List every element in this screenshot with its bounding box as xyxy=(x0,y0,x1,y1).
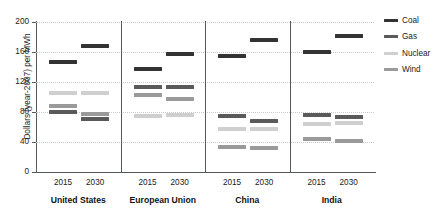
legend-swatch-icon xyxy=(384,19,398,22)
data-marker xyxy=(218,114,246,118)
group-separator xyxy=(290,21,291,173)
data-marker xyxy=(335,34,363,38)
y-tick-label: 80 xyxy=(0,107,29,116)
year-label: 2030 xyxy=(73,178,117,187)
data-marker xyxy=(218,54,246,58)
y-tick-mark xyxy=(32,112,36,113)
data-marker xyxy=(335,139,363,143)
data-marker xyxy=(303,122,331,126)
year-label: 2030 xyxy=(158,178,202,187)
data-marker xyxy=(303,113,331,117)
data-marker xyxy=(134,85,162,89)
y-tick-mark xyxy=(32,52,36,53)
legend-item[interactable]: Nuclear xyxy=(384,45,444,62)
y-tick-label: 160 xyxy=(0,47,29,56)
legend-item[interactable]: Coal xyxy=(384,12,444,29)
data-marker xyxy=(218,127,246,131)
chart-legend: CoalGasNuclearWind xyxy=(384,12,444,78)
data-marker xyxy=(335,115,363,119)
legend-item[interactable]: Gas xyxy=(384,29,444,46)
data-marker xyxy=(303,50,331,54)
legend-swatch-icon xyxy=(384,35,398,38)
data-marker xyxy=(134,67,162,71)
legend-swatch-icon xyxy=(384,52,398,55)
data-marker xyxy=(49,91,77,95)
y-tick-label: 0 xyxy=(0,167,29,176)
y-tick-label: 200 xyxy=(0,17,29,26)
legend-label: Wind xyxy=(402,65,421,74)
year-label: 2030 xyxy=(327,178,371,187)
data-marker xyxy=(335,121,363,125)
group-separator xyxy=(205,21,206,173)
y-tick-label: 120 xyxy=(0,77,29,86)
data-marker xyxy=(81,91,109,95)
legend-label: Gas xyxy=(402,32,417,41)
data-marker xyxy=(250,38,278,42)
data-marker xyxy=(250,119,278,123)
legend-swatch-icon xyxy=(384,68,398,71)
data-marker xyxy=(250,127,278,131)
data-marker xyxy=(134,114,162,118)
data-marker xyxy=(166,97,194,101)
region-label: India xyxy=(267,195,397,205)
data-marker xyxy=(81,44,109,48)
levelized-cost-chart: Dollars (year-2007) per MWh 040801201602… xyxy=(0,0,444,216)
legend-label: Coal xyxy=(402,16,419,25)
y-tick-label: 40 xyxy=(0,137,29,146)
y-tick-mark xyxy=(32,22,36,23)
data-marker xyxy=(134,93,162,97)
group-separator xyxy=(121,21,122,173)
legend-label: Nuclear xyxy=(402,49,430,58)
data-marker xyxy=(49,110,77,114)
data-marker xyxy=(166,85,194,89)
data-marker xyxy=(81,112,109,116)
legend-item[interactable]: Wind xyxy=(384,62,444,79)
data-marker xyxy=(166,113,194,117)
y-tick-mark xyxy=(32,82,36,83)
y-tick-mark xyxy=(32,172,36,173)
data-marker xyxy=(303,137,331,141)
data-marker xyxy=(166,52,194,56)
data-marker xyxy=(218,145,246,149)
year-label: 2030 xyxy=(242,178,286,187)
data-marker xyxy=(49,104,77,108)
data-marker xyxy=(49,60,77,64)
y-tick-mark xyxy=(32,142,36,143)
data-marker xyxy=(81,117,109,121)
data-marker xyxy=(250,146,278,150)
